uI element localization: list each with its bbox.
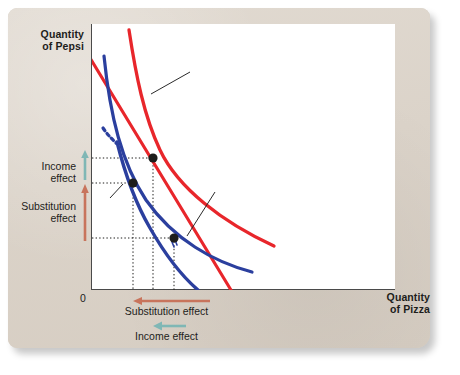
plot-graphics (92, 24, 396, 290)
data-point-a (169, 233, 178, 242)
horizontal-effect-arrows (126, 296, 216, 338)
origin-label: 0 (80, 292, 86, 304)
plot-area (91, 24, 395, 290)
figure-screenshot: Quantity of Pepsi Quantity of Pizza 0 In… (0, 0, 460, 375)
indifference-curve-i2-dashed-extension (103, 128, 116, 143)
income-effect-arrow-left (153, 322, 186, 331)
substitution-effect-arrow-left (133, 297, 210, 305)
y-axis-title: Quantity of Pepsi (36, 28, 84, 53)
vertical-effect-arrows (76, 146, 94, 246)
x-axis-title: Quantity of Pizza (378, 291, 430, 316)
data-point-c (148, 153, 157, 162)
data-point-b (128, 178, 137, 187)
leader-new-budget-constraint (151, 72, 190, 94)
leader-initial-budget-constraint (110, 184, 123, 198)
side-substitution-effect-label: Substitution effect (8, 200, 76, 225)
income-effect-arrow-up (81, 150, 89, 180)
side-income-effect-label: Income effect (22, 160, 76, 185)
substitution-effect-arrow-up (81, 184, 89, 241)
